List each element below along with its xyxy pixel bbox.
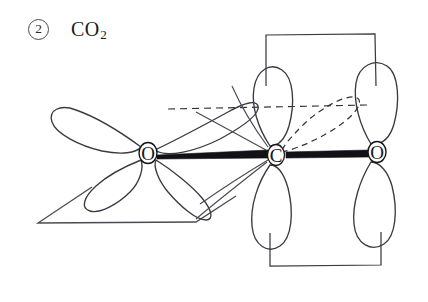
O-left-lobe-lower-right [155,160,211,220]
atom-O-right-label: O [370,142,384,163]
C-lobe-down [252,165,292,249]
atom-C-center: C [268,145,285,167]
C-ray-4 [232,86,268,147]
figure-canvas: 2 CO2 [0,0,428,302]
C-ray-3 [196,112,266,150]
orbital-lobes-C-dashed [282,97,360,152]
atom-O-left: O [139,143,157,165]
bond-C-O-right [286,150,369,158]
atom-O-right: O [368,142,386,164]
C-lobe-dashed-upright [282,97,360,152]
O-left-lobe-upper-right [155,103,258,154]
guide-dashed-horizontal [168,105,368,109]
co2-orbital-diagram: O C O [0,0,428,302]
atom-O-left-label: O [141,143,155,164]
O-right-lobe-down [354,162,396,247]
atom-C-center-label: C [270,145,283,166]
guide-box-top [266,34,376,86]
O-left-lobe-upper-left [51,108,141,153]
O-left-lobe-lower-left [84,160,142,212]
guide-parallelogram-left [38,187,236,223]
O-right-lobe-up [355,63,397,144]
bond-O-left-C [157,150,268,159]
